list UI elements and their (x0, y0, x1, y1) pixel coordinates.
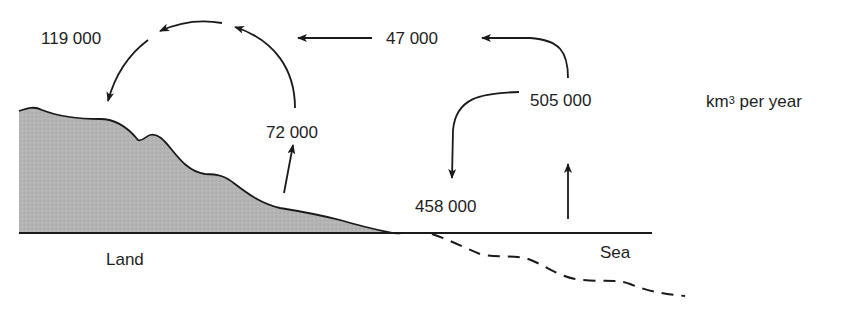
unit-base: km (706, 92, 729, 111)
land-rise-arc (235, 27, 295, 108)
unit-superscript: 3 (729, 94, 735, 106)
flow-label-land-precipitation: 119 000 (41, 29, 101, 49)
sea-transport-arc (482, 38, 568, 78)
flow-label-sea-precipitation: 458 000 (415, 197, 476, 217)
land-evaporation-arrow (284, 145, 293, 193)
sea-precipitation-arrow (452, 92, 519, 178)
land-precipitation-arrow (108, 40, 148, 101)
water-cycle-diagram: 119 000 47 000 505 000 72 000 458 000 km… (0, 0, 844, 312)
land-shape (19, 108, 392, 233)
flow-label-sea-to-land: 47 000 (386, 29, 438, 49)
unit-label: km3 per year (706, 92, 802, 112)
unit-suffix: per year (735, 92, 802, 111)
sea-floor-dashed (432, 234, 685, 296)
top-arc (160, 21, 222, 31)
region-label-land: Land (106, 250, 144, 270)
flow-label-sea-evaporation: 505 000 (530, 91, 591, 111)
flow-label-land-evaporation: 72 000 (266, 123, 318, 143)
region-label-sea: Sea (600, 243, 630, 263)
